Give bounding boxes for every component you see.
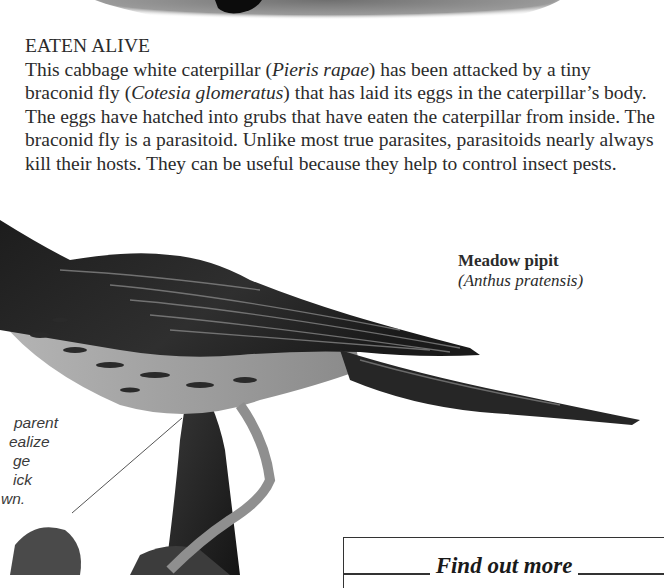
species-latin-name: (Anthus pratensis) — [458, 271, 583, 291]
find-out-more-label: Find out more — [430, 553, 579, 579]
species-label: Meadow pipit (Anthus pratensis) — [458, 251, 583, 291]
side-note-line: parent — [0, 413, 70, 432]
caterpillar-photo — [0, 0, 653, 36]
caption-title: EATEN ALIVE — [25, 34, 655, 58]
heading-rule-left — [344, 573, 430, 574]
side-note-line: ge — [0, 451, 70, 470]
side-note-line: ick — [0, 470, 70, 489]
find-out-more-box: Find out more — [343, 537, 664, 588]
side-note-line: ealize — [0, 432, 70, 451]
heading-rule-right — [578, 573, 664, 574]
caption-text: This cabbage white caterpillar (Pieris r… — [25, 58, 655, 176]
find-out-more-heading: Find out more — [344, 552, 664, 580]
callout-line — [72, 418, 182, 513]
side-note-line: wn. — [0, 489, 70, 508]
caption-species-pieris: Pieris rapae — [272, 59, 369, 80]
side-note-text: parent ealize ge ick wn. — [0, 413, 70, 508]
caption-species-cotesia: Cotesia glomeratus — [131, 82, 283, 103]
caption-block: EATEN ALIVE This cabbage white caterpill… — [25, 34, 655, 176]
species-common-name: Meadow pipit — [458, 251, 583, 271]
caption-segment: This cabbage white caterpillar ( — [25, 59, 272, 80]
